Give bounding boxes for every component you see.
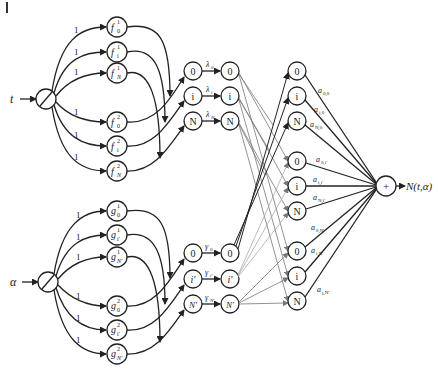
weight-a0N: a bbox=[311, 223, 315, 232]
gamma-i: γ bbox=[205, 268, 209, 277]
svg-text:1: 1 bbox=[117, 19, 120, 25]
svg-text:0,0: 0,0 bbox=[323, 91, 330, 97]
edges-t-to-f: 1 1 1 1 1 1 bbox=[52, 25, 106, 171]
weight-label: 1 bbox=[76, 210, 81, 220]
node-gN-1: g 1 N' bbox=[107, 247, 127, 267]
combo-layer: 0 i N 0 i N 0 i N bbox=[288, 62, 306, 310]
svg-text:i,i': i,i' bbox=[318, 180, 323, 186]
svg-text:i': i' bbox=[117, 236, 120, 242]
weight-label: 1 bbox=[74, 130, 79, 140]
input-alpha-label: α bbox=[10, 275, 17, 289]
svg-text:g: g bbox=[111, 324, 116, 335]
svg-text:0: 0 bbox=[295, 156, 300, 167]
weight-aN0: a bbox=[310, 120, 314, 129]
g-nodes: g 1 0 g 1 i' g 1 N' g 2 0 g 2 i' g 2 N' bbox=[107, 201, 127, 364]
alpha-product-layer: 0 i' N' γ 0 γ i' γ N' 0 i' N' bbox=[184, 242, 239, 313]
weight-aNi: a bbox=[313, 193, 317, 202]
svg-text:1: 1 bbox=[117, 203, 120, 209]
node-f0-2: f 2 0 bbox=[107, 112, 127, 132]
weight-label: 1 bbox=[76, 291, 81, 301]
svg-text:i: i bbox=[211, 90, 213, 95]
svg-text:0: 0 bbox=[228, 248, 233, 259]
lambda-i: λ bbox=[205, 85, 210, 94]
t-product-layer: 0 i N λ 0 λ i λ N 0 i N bbox=[184, 60, 239, 130]
weight-a0i: a bbox=[316, 155, 320, 164]
weight-label: 1 bbox=[76, 252, 81, 262]
svg-text:i': i' bbox=[228, 274, 234, 285]
svg-text:N: N bbox=[293, 206, 300, 217]
svg-text:0: 0 bbox=[191, 66, 196, 77]
weight-a00: a bbox=[318, 86, 322, 95]
svg-text:0,N': 0,N' bbox=[316, 228, 324, 234]
gamma-N: γ bbox=[205, 293, 209, 302]
svg-text:0: 0 bbox=[228, 66, 233, 77]
neural-network-diagram: t 1 1 1 1 1 1 f 1 0 f 1 i f 1 N bbox=[0, 0, 438, 374]
svg-text:i: i bbox=[296, 181, 299, 192]
svg-text:0: 0 bbox=[210, 247, 213, 252]
svg-text:0: 0 bbox=[211, 65, 214, 70]
svg-text:i: i bbox=[296, 91, 299, 102]
input-alpha: α bbox=[10, 272, 58, 292]
svg-text:N': N' bbox=[225, 300, 235, 310]
svg-text:2: 2 bbox=[117, 322, 120, 328]
edges-g-to-product bbox=[127, 210, 184, 354]
weight-label: 1 bbox=[74, 47, 79, 57]
svg-text:N: N bbox=[293, 116, 300, 127]
svg-text:2: 2 bbox=[117, 114, 120, 120]
svg-text:i': i' bbox=[191, 274, 197, 285]
svg-text:g: g bbox=[111, 348, 116, 359]
weight-label: 1 bbox=[74, 152, 79, 162]
edges-to-sum: a 0,0 a i,0 a N,0 a 0,i' a i,i' a N,i' a… bbox=[305, 75, 376, 297]
svg-text:0: 0 bbox=[117, 307, 120, 313]
svg-text:g: g bbox=[111, 205, 116, 216]
svg-text:g: g bbox=[111, 300, 116, 311]
cross-connections bbox=[234, 73, 288, 304]
svg-text:i: i bbox=[192, 91, 195, 102]
weight-label: 1 bbox=[76, 232, 81, 242]
node-g0-1: g 1 0 bbox=[107, 201, 127, 221]
weight-label: 1 bbox=[74, 107, 79, 117]
plus-icon: + bbox=[383, 180, 389, 192]
svg-text:1: 1 bbox=[117, 44, 120, 50]
weight-ai0: a bbox=[314, 105, 318, 114]
svg-text:0: 0 bbox=[117, 212, 120, 218]
svg-text:j,N': j,N' bbox=[321, 290, 329, 296]
node-fN-2: f 2 N bbox=[107, 161, 127, 181]
weight-aiN: a bbox=[311, 246, 315, 255]
node-gi-2: g 2 i' bbox=[107, 320, 127, 340]
lambda-0: λ bbox=[205, 60, 210, 69]
svg-text:N': N' bbox=[116, 258, 123, 264]
svg-text:i: i bbox=[296, 271, 299, 282]
svg-text:1: 1 bbox=[117, 227, 120, 233]
edges-f-to-product bbox=[127, 26, 184, 171]
svg-text:N: N bbox=[189, 116, 196, 127]
svg-text:N: N bbox=[210, 115, 215, 120]
weight-label: 1 bbox=[74, 67, 79, 77]
weight-aii: a bbox=[313, 175, 317, 184]
node-gN-2: g 2 N' bbox=[107, 344, 127, 364]
output-label: N(t,α) bbox=[405, 180, 433, 193]
input-t-label: t bbox=[10, 92, 14, 106]
svg-text:0: 0 bbox=[191, 248, 196, 259]
svg-text:0,i': 0,i' bbox=[321, 160, 327, 166]
svg-text:N': N' bbox=[116, 355, 123, 361]
f-nodes: f 1 0 f 1 i f 1 N f 2 0 f 2 i f 2 N bbox=[107, 17, 127, 181]
node-gi-1: g 1 i' bbox=[107, 225, 127, 245]
svg-text:0: 0 bbox=[295, 66, 300, 77]
weight-label: 1 bbox=[74, 25, 79, 35]
node-g0-2: g 2 0 bbox=[107, 296, 127, 316]
input-t: t bbox=[10, 89, 56, 109]
svg-text:0: 0 bbox=[117, 28, 120, 34]
weight-label: 1 bbox=[76, 313, 81, 323]
node-fN-1: f 1 N bbox=[107, 63, 127, 83]
svg-text:N: N bbox=[293, 296, 300, 307]
lambda-N: λ bbox=[205, 110, 210, 119]
svg-text:i': i' bbox=[210, 273, 213, 278]
svg-text:2: 2 bbox=[117, 138, 120, 144]
svg-text:N': N' bbox=[209, 298, 215, 303]
svg-text:2: 2 bbox=[117, 298, 120, 304]
svg-text:0: 0 bbox=[295, 246, 300, 257]
edges-alpha-to-g: 1 1 1 1 1 1 bbox=[54, 210, 106, 354]
svg-text:2: 2 bbox=[117, 346, 120, 352]
node-fi-1: f 1 i bbox=[107, 42, 127, 62]
